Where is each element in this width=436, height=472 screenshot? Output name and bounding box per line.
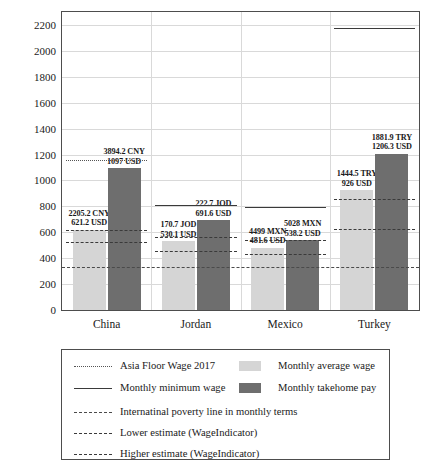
x-tick-label-jordan: Jordan	[181, 318, 212, 330]
legend-swatch	[232, 361, 270, 371]
asia-floor-wage-line-china	[66, 160, 147, 161]
bar-value-label: 1444.5 TRY926 USD	[337, 169, 377, 188]
legend-label: Monthly minimum wage	[120, 382, 225, 393]
legend-item[interactable]: Monthly takehome pay	[232, 382, 376, 393]
bar-mexico-take[interactable]	[286, 240, 319, 310]
plot-area: 0200400600800100012001400160018002000220…	[61, 11, 420, 311]
bar-value-label: 2205.2 CNY621.2 USD	[68, 209, 109, 228]
y-tick-label: 800	[40, 200, 57, 212]
legend-line-key	[74, 407, 112, 417]
group-separator	[330, 12, 331, 310]
bar-turkey-avg[interactable]	[340, 190, 373, 310]
y-tick-label: 2200	[34, 19, 56, 31]
bar-value-label: 222.7 JOD691.6 USD	[195, 199, 231, 218]
legend-label: Asia Floor Wage 2017	[120, 360, 215, 371]
lower-estimate-line-turkey	[334, 229, 415, 230]
legend-dashed-line-icon	[74, 454, 112, 455]
minimum-wage-line-turkey	[334, 28, 415, 29]
legend-label: Lower estimate (WageIndicator)	[120, 427, 257, 438]
legend-item[interactable]: Monthly average wage	[232, 360, 375, 371]
y-tick-label: 200	[40, 278, 57, 290]
group-separator	[241, 12, 242, 310]
higher-estimate-line-turkey	[334, 199, 415, 200]
y-tick-label: 0	[51, 304, 57, 316]
legend-dashdot-line-icon	[74, 412, 112, 413]
legend-label: Monthly average wage	[278, 360, 375, 371]
minimum-wage-line-jordan	[155, 205, 236, 206]
legend-dotted-line-icon	[74, 366, 112, 367]
y-tick-label: 1600	[34, 97, 56, 109]
legend-label: Internatinal poverty line in monthly ter…	[120, 406, 297, 417]
higher-estimate-line-jordan	[155, 237, 236, 238]
legend-line-key	[74, 449, 112, 459]
y-tick-label: 600	[40, 226, 57, 238]
lower-estimate-line-china	[66, 242, 147, 243]
y-tick-label: 1200	[34, 149, 56, 161]
lower-estimate-line-jordan	[155, 251, 236, 252]
higher-estimate-line-china	[66, 230, 147, 231]
y-tick-label: 400	[40, 252, 57, 264]
legend-item[interactable]: Lower estimate (WageIndicator)	[74, 427, 257, 438]
legend-solid-line-icon	[74, 388, 112, 389]
legend-swatch-takehome-pay	[239, 383, 261, 393]
legend-item[interactable]: Internatinal poverty line in monthly ter…	[74, 406, 297, 417]
bar-jordan-take[interactable]	[197, 220, 230, 310]
x-tick-label-mexico: Mexico	[268, 318, 303, 330]
chart-legend: Asia Floor Wage 2017Monthly average wage…	[61, 349, 390, 460]
legend-label: Monthly takehome pay	[278, 382, 376, 393]
chart-figure: PPP adjusted USD 02004006008001000120014…	[0, 0, 436, 472]
higher-estimate-line-mexico	[245, 240, 326, 241]
bar-china-take[interactable]	[108, 168, 141, 310]
bar-value-label: 3894.2 CNY1097 USD	[103, 147, 144, 166]
y-tick-label: 1000	[34, 174, 56, 186]
bar-value-label: 5028 MXN538.2 USD	[284, 219, 321, 238]
y-tick-label: 2000	[34, 45, 56, 57]
legend-item[interactable]: Asia Floor Wage 2017	[74, 360, 215, 371]
bar-value-label: 1881.9 TRY1206.3 USD	[372, 133, 412, 152]
group-separator	[151, 12, 152, 310]
legend-line-key	[74, 361, 112, 371]
lower-estimate-line-mexico	[245, 254, 326, 255]
legend-item[interactable]: Monthly minimum wage	[74, 382, 225, 393]
legend-line-key	[74, 383, 112, 393]
bar-turkey-take[interactable]	[375, 154, 408, 310]
x-tick-label-china: China	[93, 318, 120, 330]
legend-line-key	[74, 428, 112, 438]
poverty-line	[62, 267, 419, 268]
legend-dashed-line-icon	[74, 433, 112, 434]
legend-swatch	[232, 383, 270, 393]
minimum-wage-line-mexico	[245, 207, 326, 208]
legend-label: Higher estimate (WageIndicator)	[120, 448, 259, 459]
legend-item[interactable]: Higher estimate (WageIndicator)	[74, 448, 259, 459]
legend-swatch-average-wage	[239, 361, 261, 371]
bar-value-label: 4499 MXN481.6 USD	[249, 227, 286, 246]
y-tick-label: 1800	[34, 71, 56, 83]
y-gridline	[62, 310, 419, 311]
x-tick-label-turkey: Turkey	[358, 318, 391, 330]
bar-mexico-avg[interactable]	[251, 248, 284, 310]
y-tick-label: 1400	[34, 123, 56, 135]
